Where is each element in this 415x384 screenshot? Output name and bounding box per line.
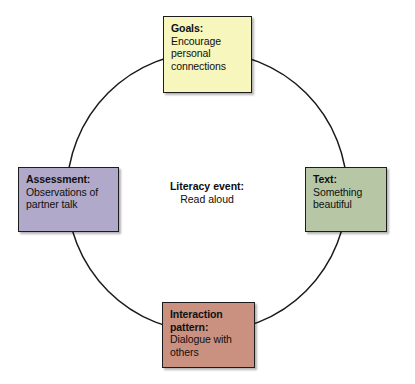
- node-interaction-pattern-body: Dialogue with others: [170, 333, 247, 358]
- node-text[interactable]: Text: Something beautiful: [305, 167, 387, 232]
- node-goals[interactable]: Goals: Encourage personal connections: [163, 16, 252, 93]
- node-text-title: Text:: [313, 173, 379, 186]
- node-assessment[interactable]: Assessment: Observations of partner talk: [18, 167, 119, 232]
- node-goals-title: Goals:: [171, 22, 244, 35]
- cycle-diagram: Goals: Encourage personal connections Te…: [0, 0, 415, 384]
- node-goals-body: Encourage personal connections: [171, 35, 244, 73]
- center-label: Literacy event: Read aloud: [132, 180, 282, 206]
- center-label-title: Literacy event:: [132, 180, 282, 193]
- node-interaction-pattern[interactable]: Interaction pattern: Dialogue with other…: [162, 302, 255, 368]
- node-assessment-body: Observations of partner talk: [26, 186, 111, 211]
- center-label-body: Read aloud: [132, 193, 282, 206]
- node-text-body: Something beautiful: [313, 186, 379, 211]
- node-interaction-pattern-title: Interaction pattern:: [170, 308, 247, 333]
- node-assessment-title: Assessment:: [26, 173, 111, 186]
